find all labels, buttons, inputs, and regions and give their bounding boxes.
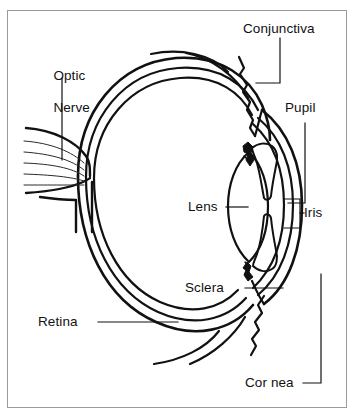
choroid-wall-lower	[86, 177, 246, 320]
conjunctiva-lower-flap	[154, 331, 219, 364]
optic-nerve-fibers	[24, 141, 84, 185]
cornea-leader	[303, 274, 321, 383]
label-pupil: Pupil	[285, 100, 316, 115]
iris-lower-flap	[253, 214, 277, 271]
choroid-wall	[86, 68, 258, 177]
label-lens: Lens	[188, 199, 218, 214]
label-sclera: Sclera	[185, 280, 224, 295]
eye-anatomy-figure: Optic Nerve Conjunctiva Pupil Lens Iris …	[0, 0, 356, 418]
label-conjunctiva: Conjunctiva	[243, 21, 315, 36]
label-iris: Iris	[304, 205, 322, 220]
sclera-outer-wall-lower	[78, 176, 253, 331]
cornea-inner-curve	[258, 118, 293, 295]
label-optic-nerve-line2: Nerve	[53, 100, 90, 115]
zonular-fibers	[244, 150, 250, 273]
label-optic-nerve-line1: Optic	[53, 68, 85, 83]
conjunctiva-lower-flap-inner	[190, 317, 245, 364]
label-retina: Retina	[38, 314, 78, 329]
label-cornea: Cor nea	[245, 375, 294, 390]
label-optic-nerve: Optic Nerve	[38, 52, 90, 132]
conjunctiva-leader	[256, 38, 280, 83]
retina-wall	[94, 78, 252, 178]
optic-nerve-sheath-lower	[40, 197, 76, 232]
